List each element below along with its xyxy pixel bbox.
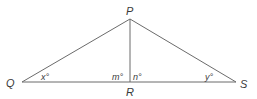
- segment-ps: [130, 19, 236, 82]
- angle-label-x: x°: [40, 72, 50, 82]
- vertex-label-p: P: [126, 5, 134, 17]
- vertex-label-r: R: [126, 86, 134, 98]
- vertex-label-s: S: [240, 78, 248, 90]
- angle-label-y: y°: [204, 72, 214, 82]
- angle-label-m: m°: [112, 72, 123, 82]
- vertex-label-q: Q: [6, 77, 15, 89]
- triangle-diagram: P Q R S x° m° n° y°: [0, 0, 257, 99]
- angle-label-n: n°: [133, 72, 142, 82]
- diagram-svg: P Q R S x° m° n° y°: [0, 0, 257, 99]
